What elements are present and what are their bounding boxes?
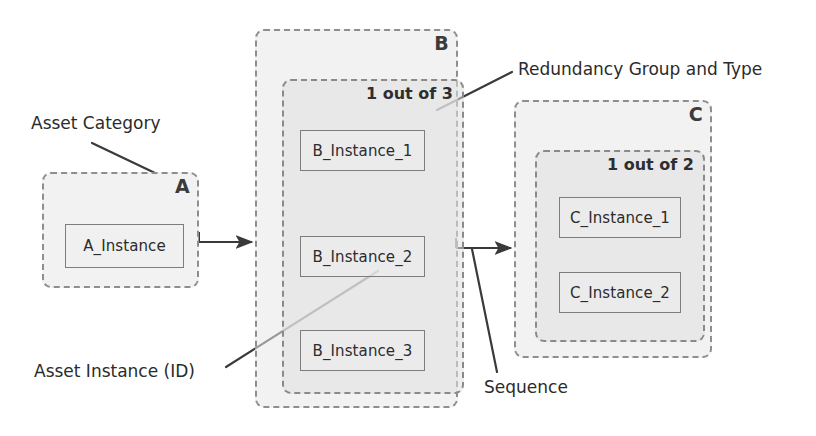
group-b[interactable]: B 1 out of 3 B_Instance_1 B_Instance_2 B…	[255, 29, 458, 408]
group-c-label: C	[689, 105, 703, 124]
redundancy-count-c: 1 out of 2	[607, 156, 694, 174]
instance-b-3[interactable]: B_Instance_3	[300, 330, 425, 371]
group-a-label: A	[175, 177, 190, 196]
group-a[interactable]: A A_Instance	[42, 172, 199, 288]
flow-arrow-b-to-c	[456, 238, 511, 248]
instance-c-2[interactable]: C_Instance_2	[559, 272, 681, 313]
leader-line-asset-category	[92, 143, 155, 173]
redundancy-group-c[interactable]: 1 out of 2 C_Instance_1 C_Instance_2	[535, 150, 705, 342]
group-c[interactable]: C 1 out of 2 C_Instance_1 C_Instance_2	[514, 100, 712, 358]
redundancy-count-b: 1 out of 3	[366, 85, 453, 103]
annotation-asset-category: Asset Category	[31, 114, 161, 134]
flow-arrow-a-to-b	[199, 232, 252, 242]
instance-a-1[interactable]: A_Instance	[65, 224, 184, 268]
instance-c-1[interactable]: C_Instance_1	[559, 197, 681, 238]
diagram-canvas: A A_Instance B 1 out of 3 B_Instance_1 B…	[0, 0, 816, 436]
instance-b-2[interactable]: B_Instance_2	[300, 236, 425, 277]
annotation-redundancy-group-and-type: Redundancy Group and Type	[518, 60, 762, 80]
annotation-asset-instance: Asset Instance (ID)	[34, 362, 195, 382]
group-b-label: B	[434, 34, 449, 53]
instance-b-1[interactable]: B_Instance_1	[300, 130, 425, 171]
leader-line-sequence	[472, 249, 497, 372]
annotation-sequence: Sequence	[484, 378, 568, 398]
redundancy-group-b[interactable]: 1 out of 3 B_Instance_1 B_Instance_2 B_I…	[282, 79, 464, 394]
